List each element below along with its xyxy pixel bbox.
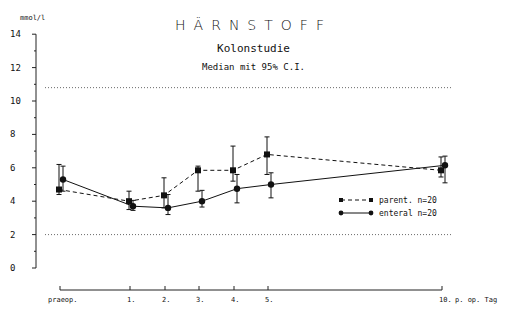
square-marker: [230, 167, 236, 173]
legend-label: parent. n=20: [379, 196, 437, 205]
y-tick-label: 2: [10, 230, 15, 240]
circle-marker: [130, 203, 136, 209]
circle-marker: [199, 198, 205, 204]
legend-label: enteral n=20: [379, 209, 437, 218]
x-axis-label: p. op. Tag: [455, 296, 497, 304]
square-marker: [195, 167, 201, 173]
chart-plot-area: 02468101214praeop.1.2.3.4.5.10.p. op. Ta…: [0, 0, 507, 322]
parent-series-line: [59, 154, 441, 201]
square-marker: [438, 167, 444, 173]
circle-marker: [60, 176, 66, 182]
x-tick-label: 10.: [439, 296, 452, 304]
x-tick-label: 3.: [196, 296, 204, 304]
legend-square-marker: [339, 198, 343, 202]
legend-circle-marker: [339, 211, 344, 216]
y-tick-label: 4: [10, 196, 15, 206]
x-tick-label: 2.: [162, 296, 170, 304]
x-tick-label: 1.: [127, 296, 135, 304]
y-tick-label: 10: [10, 96, 21, 106]
circle-marker: [234, 185, 240, 191]
legend-square-marker: [369, 198, 373, 202]
square-marker: [161, 192, 167, 198]
legend-circle-marker: [369, 211, 374, 216]
y-tick-label: 6: [10, 163, 15, 173]
square-marker: [264, 151, 270, 157]
circle-marker: [442, 162, 448, 168]
circle-marker: [268, 181, 274, 187]
x-tick-label: 4.: [231, 296, 239, 304]
y-tick-label: 12: [10, 63, 21, 73]
y-tick-label: 14: [10, 29, 21, 39]
y-tick-label: 0: [10, 263, 15, 273]
y-tick-label: 8: [10, 129, 15, 139]
square-marker: [126, 198, 132, 204]
x-tick-label: 5.: [265, 296, 273, 304]
x-tick-label: praeop.: [48, 296, 78, 304]
circle-marker: [165, 205, 171, 211]
